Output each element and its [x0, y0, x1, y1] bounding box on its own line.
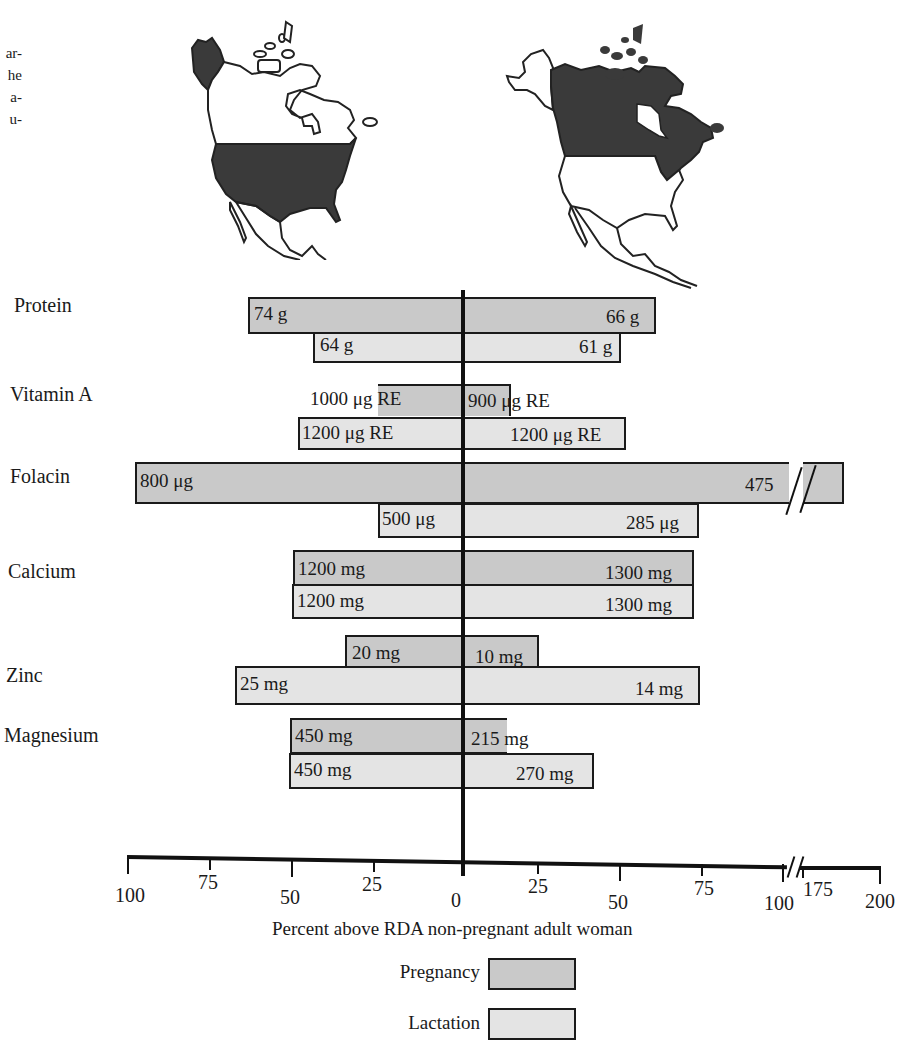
x-tick-label: 100 — [764, 892, 794, 915]
value-vitamin-a-lactation-canada: 1200 μg RE — [510, 424, 601, 446]
north-america-map-usa-highlighted — [190, 10, 410, 260]
bar-protein-lactation — [313, 332, 621, 363]
legend-label-pregnancy: Pregnancy — [370, 961, 480, 983]
category-label-zinc: Zinc — [6, 664, 43, 687]
legend-label-lactation: Lactation — [370, 1012, 480, 1034]
value-folacin-lactation-canada: 285 μg — [626, 512, 679, 534]
value-vitamin-a-lactation-usa: 1200 μg RE — [302, 422, 393, 444]
category-label-vitamin-a: Vitamin A — [10, 383, 93, 406]
side-text-line: he — [0, 64, 22, 86]
x-tick-label: 75 — [694, 877, 714, 900]
bar-zinc-lactation — [235, 666, 700, 705]
x-axis-line — [127, 855, 787, 869]
legend-swatch-lactation — [488, 1008, 576, 1040]
x-tick — [879, 866, 881, 884]
value-zinc-lactation-canada: 14 mg — [635, 678, 683, 700]
value-protein-pregnancy-canada: 66 g — [606, 306, 639, 328]
value-calcium-lactation-usa: 1200 mg — [297, 590, 364, 612]
x-tick — [127, 856, 129, 874]
value-zinc-pregnancy-canada: 10 mg — [475, 646, 523, 668]
x-tick — [619, 863, 621, 881]
cropped-side-text: ar- he a- u- — [0, 42, 22, 130]
side-text-line: u- — [0, 108, 22, 130]
x-tick-label: 50 — [280, 886, 300, 909]
x-tick-label: 75 — [198, 871, 218, 894]
bar-folacin-pregnancy — [135, 462, 844, 504]
x-tick-label: 50 — [608, 891, 628, 914]
value-magnesium-pregnancy-canada: 215 mg — [471, 728, 529, 750]
x-tick — [291, 859, 293, 877]
category-label-protein: Protein — [14, 294, 72, 317]
x-axis-line-broken-segment — [800, 866, 881, 870]
value-vitamin-a-pregnancy-canada: 900 μg RE — [468, 390, 550, 412]
value-zinc-lactation-usa: 25 mg — [240, 673, 288, 695]
x-tick — [802, 866, 804, 878]
x-tick — [373, 860, 375, 872]
x-tick-label: 0 — [451, 889, 461, 912]
value-vitamin-a-pregnancy-usa: 1000 μg RE — [310, 388, 401, 410]
value-zinc-pregnancy-usa: 20 mg — [352, 642, 400, 664]
value-calcium-lactation-canada: 1300 mg — [605, 594, 672, 616]
value-protein-lactation-canada: 61 g — [579, 336, 612, 358]
value-magnesium-lactation-canada: 270 mg — [516, 763, 574, 785]
category-label-magnesium: Magnesium — [4, 724, 98, 747]
x-tick — [782, 864, 784, 882]
x-tick-label: 175 — [803, 878, 833, 901]
value-folacin-pregnancy-usa: 800 μg — [140, 470, 193, 492]
value-protein-pregnancy-usa: 74 g — [254, 303, 287, 325]
category-label-folacin: Folacin — [10, 465, 70, 488]
value-folacin-pregnancy-canada: 475 — [745, 474, 774, 496]
category-label-calcium: Calcium — [8, 560, 76, 583]
value-protein-lactation-usa: 64 g — [320, 334, 353, 356]
axis-break-mark — [787, 856, 796, 878]
value-calcium-pregnancy-canada: 1300 mg — [605, 562, 672, 584]
bar-protein-pregnancy — [248, 297, 656, 334]
x-tick-label: 25 — [528, 875, 548, 898]
x-tick-label: 25 — [362, 873, 382, 896]
value-magnesium-pregnancy-usa: 450 mg — [295, 725, 353, 747]
zero-axis-line — [461, 290, 465, 876]
value-calcium-pregnancy-usa: 1200 mg — [298, 558, 365, 580]
x-tick — [537, 862, 539, 874]
side-text-line: a- — [0, 86, 22, 108]
x-tick — [209, 858, 211, 870]
x-tick — [461, 860, 465, 874]
x-axis-label: Percent above RDA non-pregnant adult wom… — [272, 918, 632, 940]
x-tick-label: 200 — [865, 890, 895, 913]
legend-swatch-pregnancy — [488, 958, 576, 990]
north-america-map-canada-highlighted — [505, 10, 735, 290]
side-text-line: ar- — [0, 42, 22, 64]
x-tick-label: 100 — [115, 884, 145, 907]
value-folacin-lactation-usa: 500 μg — [382, 508, 435, 530]
x-tick — [701, 864, 703, 876]
value-magnesium-lactation-usa: 450 mg — [294, 759, 352, 781]
